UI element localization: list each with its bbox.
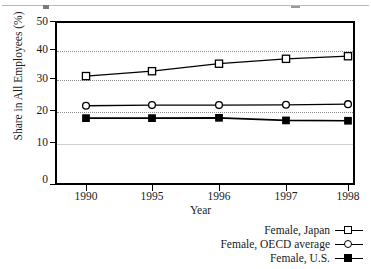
y-tick-mark-50 [50, 21, 55, 22]
y-tick-label-0: 0 [26, 173, 48, 185]
legend-entry-japan: Female, Japan [181, 223, 363, 237]
legend-entry-us: Female, U.S. [181, 251, 363, 265]
y-tick-label-50: 50 [26, 15, 48, 27]
legend-label-japan: Female, Japan [264, 224, 335, 237]
chart-legend: Female, Japan Female, OECD average Femal… [181, 223, 363, 265]
legend-marker-open-circle-icon [335, 238, 363, 250]
y-tick-mark-20 [50, 110, 55, 111]
y-tick-label-40: 40 [26, 43, 48, 55]
chart-figure: 50 40 30 20 10 0 1990 1995 1996 1997 199… [0, 0, 371, 269]
x-tick-label-1990: 1990 [64, 190, 108, 203]
legend-entry-oecd: Female, OECD average [181, 237, 363, 251]
y-tick-mark-40 [50, 49, 55, 50]
x-tick-label-1998: 1998 [326, 190, 370, 203]
legend-label-oecd: Female, OECD average [220, 238, 335, 251]
y-tick-label-10: 10 [26, 136, 48, 148]
legend-marker-open-square-icon [335, 224, 363, 236]
y-tick-mark-0 [50, 184, 55, 185]
y-tick-mark-10 [50, 142, 55, 143]
x-tick-label-1995: 1995 [130, 190, 174, 203]
x-axis-title: Year [0, 204, 371, 216]
y-tick-label-20: 20 [26, 104, 48, 116]
x-tick-label-1996: 1996 [197, 190, 241, 203]
x-tick-label-1997: 1997 [264, 190, 308, 203]
y-axis-title: Share in All Employees (%) [12, 6, 24, 146]
legend-marker-filled-square-icon [335, 252, 363, 264]
legend-label-us: Female, U.S. [270, 252, 335, 265]
y-tick-label-30: 30 [26, 72, 48, 84]
y-tick-mark-30 [50, 78, 55, 79]
